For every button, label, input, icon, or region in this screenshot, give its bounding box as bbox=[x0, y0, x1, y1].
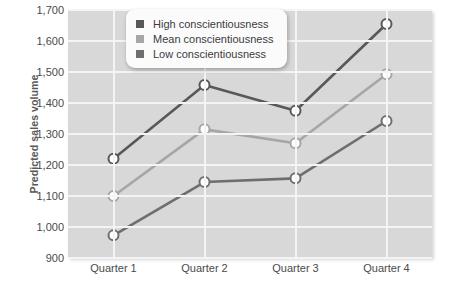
y-axis-tick-label: 1,400 bbox=[20, 98, 64, 109]
gridline-horizontal bbox=[68, 226, 432, 228]
gridline-horizontal bbox=[68, 71, 432, 73]
gridline-horizontal bbox=[68, 257, 432, 259]
legend-item[interactable]: Low conscientiousness bbox=[136, 46, 273, 61]
gridline-vertical bbox=[113, 10, 115, 258]
gridline-vertical bbox=[386, 10, 388, 258]
legend-swatch-icon bbox=[136, 50, 144, 58]
x-axis-tick-labels: Quarter 1Quarter 2Quarter 3Quarter 4 bbox=[68, 262, 432, 282]
y-axis-tick-label: 1,100 bbox=[20, 191, 64, 202]
legend: High conscientiousnessMean conscientious… bbox=[126, 9, 287, 68]
y-axis-tick-labels: 9001,0001,1001,2001,3001,4001,5001,6001,… bbox=[12, 0, 64, 291]
y-axis-tick-label: 1,700 bbox=[20, 5, 64, 16]
gridline-horizontal bbox=[68, 133, 432, 135]
x-axis-tick-label: Quarter 3 bbox=[272, 262, 318, 274]
legend-item-label: High conscientiousness bbox=[153, 18, 269, 30]
x-axis-tick-label: Quarter 2 bbox=[181, 262, 227, 274]
series-line bbox=[114, 74, 387, 196]
y-axis-tick-label: 1,300 bbox=[20, 129, 64, 140]
legend-item-label: Mean conscientiousness bbox=[153, 33, 273, 45]
legend-swatch-icon bbox=[136, 35, 144, 43]
legend-item[interactable]: High conscientiousness bbox=[136, 16, 273, 31]
y-axis-tick-label: 900 bbox=[20, 253, 64, 264]
series-line bbox=[114, 121, 387, 235]
gridline-horizontal bbox=[68, 164, 432, 166]
legend-swatch-icon bbox=[136, 20, 144, 28]
gridline-horizontal bbox=[68, 195, 432, 197]
y-axis-tick-label: 1,500 bbox=[20, 67, 64, 78]
y-axis-tick-label: 1,200 bbox=[20, 160, 64, 171]
legend-item[interactable]: Mean conscientiousness bbox=[136, 31, 273, 46]
gridline-vertical bbox=[295, 10, 297, 258]
y-axis-tick-label: 1,000 bbox=[20, 222, 64, 233]
gridline-horizontal bbox=[68, 102, 432, 104]
y-axis-tick-label: 1,600 bbox=[20, 36, 64, 47]
line-chart: Predicted sales volume 9001,0001,1001,20… bbox=[0, 0, 454, 291]
x-axis-tick-label: Quarter 4 bbox=[363, 262, 409, 274]
x-axis-tick-label: Quarter 1 bbox=[90, 262, 136, 274]
legend-item-label: Low conscientiousness bbox=[153, 48, 266, 60]
